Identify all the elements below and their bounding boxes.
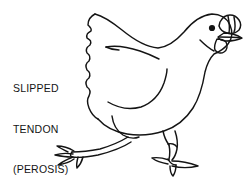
tail-outline: [86, 14, 98, 119]
normal-leg-shank-front: [169, 145, 170, 159]
comb-detail-1: [228, 16, 229, 33]
jaw-line: [200, 40, 214, 51]
affected-foot-toe-1: [57, 146, 74, 152]
wing-upper-line: [106, 46, 159, 59]
comb-detail-2: [234, 17, 235, 32]
beak-line: [219, 37, 241, 38]
perosis-illustration-figure: SLIPPED TENDON (PEROSIS): [0, 0, 248, 180]
affected-foot-toe-4: [77, 157, 83, 168]
eye-icon: [209, 25, 215, 31]
normal-foot-toe-back: [152, 158, 169, 164]
affected-leg-shank: [72, 137, 128, 152]
wing-upper-tip: [106, 47, 119, 50]
wing-lower-line: [108, 69, 167, 108]
normal-leg-thigh: [163, 131, 169, 145]
affected-foot-toe-3: [58, 157, 74, 165]
affected-leg-shank-underside: [72, 142, 131, 157]
body-outline: [95, 14, 232, 135]
chicken-line-drawing: [0, 0, 248, 180]
